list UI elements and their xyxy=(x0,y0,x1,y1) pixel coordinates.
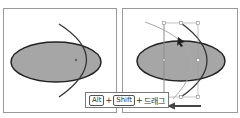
alt-key: Alt xyxy=(89,95,104,106)
ellipse-shape xyxy=(11,42,101,82)
handle[interactable] xyxy=(180,96,183,99)
shift-key: Shift xyxy=(113,95,135,106)
center-point xyxy=(75,59,77,61)
handle[interactable] xyxy=(163,22,166,25)
plus-sign: + xyxy=(136,96,143,105)
handle[interactable] xyxy=(180,22,183,25)
handle[interactable] xyxy=(197,22,200,25)
shortcut-label: Alt + Shift + 드래그 xyxy=(85,92,169,108)
handle[interactable] xyxy=(197,59,200,62)
plus-sign: + xyxy=(105,96,112,105)
reference-point xyxy=(163,59,165,61)
handle[interactable] xyxy=(197,96,200,99)
drag-label: 드래그 xyxy=(144,95,165,106)
